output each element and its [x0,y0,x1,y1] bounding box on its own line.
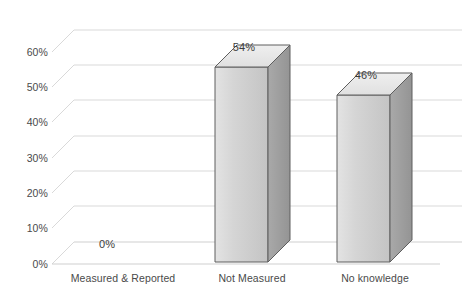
x-tick-label-measured-and-reported: Measured & Reported [58,272,188,284]
data-label-measured-and-reported: 0% [85,238,129,250]
x-tick-label-not-measured: Not Measured [187,272,317,284]
y-tick-label-30: 30% [8,152,48,164]
x-tick-label-no-knowledge: No knowledge [310,272,440,284]
bar-no-knowledge[interactable] [337,73,412,262]
data-label-no-knowledge: 46% [344,69,388,81]
y-tick-label-50: 50% [8,81,48,93]
bar-not-measured[interactable] [215,45,290,262]
y-tick-label-20: 20% [8,187,48,199]
y-tick-label-40: 40% [8,116,48,128]
y-tick-label-0: 0% [8,258,48,270]
y-tick-label-60: 60% [8,46,48,58]
y-tick-label-10: 10% [8,222,48,234]
data-label-not-measured: 54% [222,41,266,53]
chart-container: 60% 50% 40% 30% 20% 10% 0% Measured & Re… [0,0,475,297]
